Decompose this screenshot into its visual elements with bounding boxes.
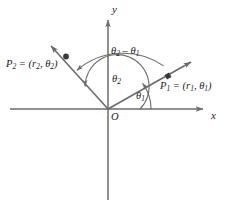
angle-label-theta-difference: θ2 – θ1	[111, 46, 139, 58]
point-label-p1: P1 = (r1, θ1)	[160, 81, 212, 93]
angle-label-theta1: θ1	[136, 91, 145, 103]
p2-comma-theta: , θ	[40, 58, 50, 69]
p1-close-paren: )	[208, 80, 212, 91]
diagram-canvas	[0, 0, 232, 218]
origin-label: O	[111, 112, 119, 123]
diff-sub-b: 1	[136, 49, 140, 58]
diff-minus: –	[120, 45, 131, 56]
angle-label-theta2: θ2	[112, 74, 121, 86]
point-marker-p2	[63, 54, 69, 60]
p1-comma-theta: , θ	[194, 80, 204, 91]
x-axis-label: x	[211, 110, 216, 121]
p1-eq-r: = (r	[170, 80, 190, 91]
p2-eq-r: = (r	[16, 58, 36, 69]
polar-angle-diagram: y x O P2 = (r2, θ2) P1 = (r1, θ1) θ1 θ2 …	[0, 0, 232, 218]
p2-close-paren: )	[54, 58, 58, 69]
theta1-sub: 1	[141, 94, 145, 103]
theta2-sub: 2	[117, 77, 121, 86]
y-axis-label: y	[112, 4, 117, 15]
point-label-p2: P2 = (r2, θ2)	[6, 59, 58, 71]
ray-p2	[51, 46, 108, 109]
